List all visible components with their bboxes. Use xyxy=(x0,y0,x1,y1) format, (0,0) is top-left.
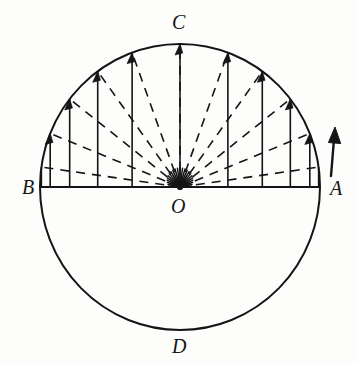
point-label-B: B xyxy=(22,177,34,197)
direction-arrow-layer xyxy=(328,127,340,176)
point-label-A: A xyxy=(330,178,342,198)
center-hub-rays-layer xyxy=(167,168,193,190)
dashed-radius-7 xyxy=(98,71,180,187)
geometry-canvas xyxy=(0,0,358,365)
point-label-C: C xyxy=(172,12,185,32)
center-point-O xyxy=(177,184,183,190)
direction-arrow-shaft xyxy=(331,140,334,176)
dashed-radius-4 xyxy=(180,53,228,187)
dashed-radius-8 xyxy=(70,99,180,187)
dashed-radius-6 xyxy=(132,53,180,187)
ordinate-arrowhead-5 xyxy=(175,44,183,55)
direction-arrow-head xyxy=(328,127,340,144)
ordinate-arrows-layer xyxy=(41,44,318,187)
geometry-figure: A B C D O xyxy=(0,0,358,365)
dashed-radius-2 xyxy=(180,99,290,187)
ordinate-arrowhead-9 xyxy=(45,133,53,144)
dashed-radius-0 xyxy=(180,167,319,187)
point-label-O: O xyxy=(171,196,185,216)
dashed-radius-10 xyxy=(41,167,180,187)
point-label-D: D xyxy=(172,336,186,356)
dashed-radius-3 xyxy=(180,71,262,187)
